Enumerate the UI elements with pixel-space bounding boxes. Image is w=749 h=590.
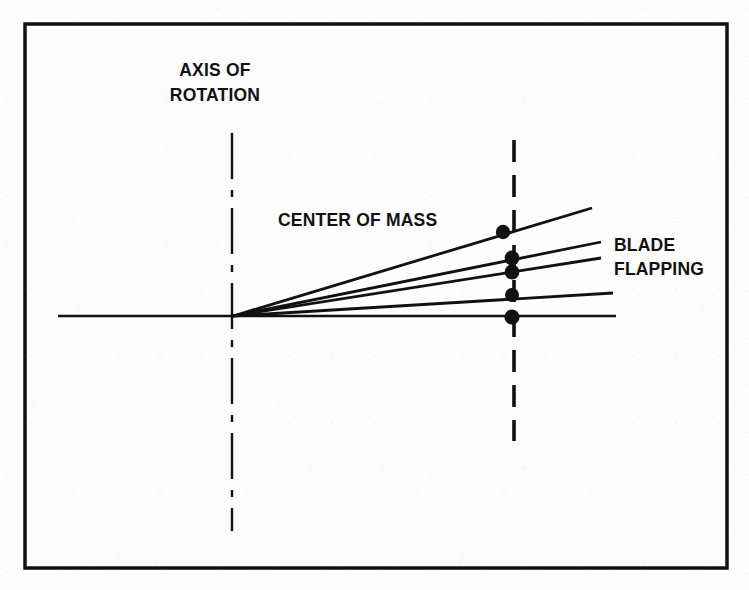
axis-of-rotation-label-line2: ROTATION (170, 85, 260, 105)
com-marker-2 (505, 265, 520, 280)
com-marker-0 (504, 309, 519, 324)
blade-flapping-label-line1: BLADE (614, 235, 675, 255)
com-marker-4 (496, 225, 510, 239)
blade-flapping-label-line2: FLAPPING (614, 259, 704, 279)
com-marker-1 (505, 288, 519, 302)
figure-root: AXIS OF ROTATION CENTER OF MASS BLADE FL… (0, 0, 749, 590)
center-of-mass-label: CENTER OF MASS (278, 210, 437, 230)
blade-flapping-diagram: AXIS OF ROTATION CENTER OF MASS BLADE FL… (0, 0, 749, 590)
com-marker-3 (505, 251, 520, 266)
axis-of-rotation-label-line1: AXIS OF (179, 60, 251, 80)
